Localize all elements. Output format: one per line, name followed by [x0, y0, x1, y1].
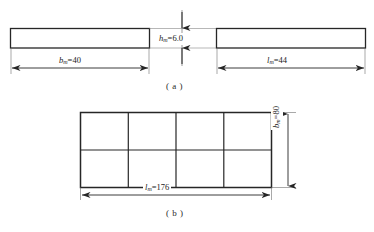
- subfigure-caption-b: ( b ): [166, 208, 184, 218]
- subfigure-b: [81, 113, 297, 201]
- value-bm-b: =80: [271, 106, 281, 119]
- dimension-label-bm-a: bm=40: [57, 55, 83, 67]
- value-bm-a: =40: [68, 55, 81, 65]
- dimension-label-bm-b: bm=80: [271, 104, 283, 130]
- dimension-label-lm-b: lm=176: [143, 182, 171, 194]
- dimension-drawing: [0, 0, 374, 232]
- subscript-m: m: [275, 119, 281, 123]
- value-lm-b: =176: [152, 182, 170, 192]
- dimension-label-hm: hm=6.0: [157, 33, 185, 45]
- value-hm: =6.0: [168, 33, 183, 43]
- subfigure-caption-a: ( a ): [166, 81, 183, 91]
- symbol-b: b: [271, 124, 281, 128]
- value-lm-a: =44: [274, 55, 287, 65]
- dimension-label-lm-a: lm=44: [265, 55, 289, 67]
- left-bar: [11, 29, 150, 49]
- right-bar: [217, 29, 366, 49]
